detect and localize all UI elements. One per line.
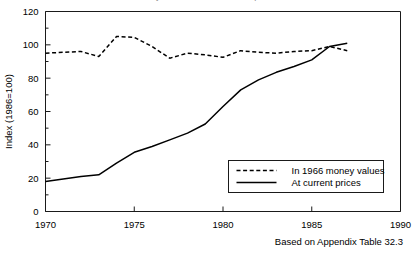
svg-text:40: 40 xyxy=(28,139,39,150)
svg-text:1985: 1985 xyxy=(301,219,322,230)
svg-text:1970: 1970 xyxy=(35,219,56,230)
svg-text:80: 80 xyxy=(28,73,39,84)
svg-text:1975: 1975 xyxy=(124,219,145,230)
svg-text:60: 60 xyxy=(28,106,39,117)
svg-text:1990: 1990 xyxy=(390,219,411,230)
svg-text:20: 20 xyxy=(28,173,39,184)
caption-label: Based on Appendix Table 32.3 xyxy=(275,236,403,247)
chart-figure: money values and at current prices 02040… xyxy=(0,0,412,255)
data-series-layer xyxy=(46,37,348,182)
svg-text:100: 100 xyxy=(23,39,39,50)
line-chart-svg: 02040608010012019701975198019851990Index… xyxy=(0,0,412,255)
chart-caption: Based on Appendix Table 32.3 xyxy=(275,236,403,247)
legend-label-0: In 1966 money values xyxy=(292,165,385,176)
svg-text:0: 0 xyxy=(33,206,38,217)
legend-label-1: At current prices xyxy=(292,177,361,188)
svg-text:Index (1986=100): Index (1986=100) xyxy=(3,74,14,149)
series-line-dashed xyxy=(46,37,348,59)
svg-text:1980: 1980 xyxy=(212,219,233,230)
svg-text:120: 120 xyxy=(23,6,39,17)
axes-layer: 02040608010012019701975198019851990Index… xyxy=(3,6,411,230)
chart-legend[interactable]: In 1966 money valuesAt current prices xyxy=(229,161,385,193)
